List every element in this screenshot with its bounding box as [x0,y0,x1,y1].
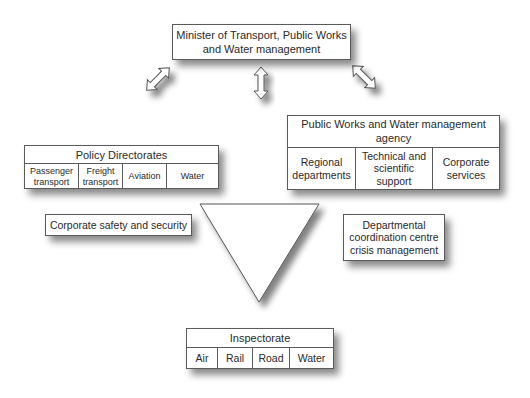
policy-directorates-box: Policy Directorates Passenger transport … [24,145,219,189]
minister-line1: Minister of Transport, Public Works [176,28,346,42]
inspectorate-title-text: Inspectorate [230,332,291,344]
unit-line: transport [83,177,119,187]
unit-line: Corporate [443,156,490,168]
unit-line: Water [181,171,205,181]
policy-unit-water: Water [167,164,218,189]
inspectorate-unit-water: Water [290,348,333,368]
unit-label: Road [258,352,283,364]
agency-unit-corporate: Corporate services [433,148,499,189]
unit-line: transport [34,177,70,187]
agency-unit-technical: Technical and scientific support [356,148,433,189]
agency-title: Public Works and Water management agency [288,116,499,148]
inspectorate-unit-air: Air [187,348,218,368]
minister-line2: and Water management [203,42,321,56]
policy-unit-aviation: Aviation [123,164,167,189]
triangle-shape [200,204,319,302]
policy-unit-passenger: Passenger transport [25,164,79,189]
agency-title-line: Public Works and Water management [301,118,486,132]
inspectorate-title: Inspectorate [187,329,333,348]
inspectorate-box: Inspectorate Air Rail Road Water [186,328,334,369]
crisis-management-box: Departmental coordination centre crisis … [343,214,445,261]
crisis-line: Departmental [362,219,425,232]
unit-line: Passenger [30,166,73,176]
unit-label: Rail [226,352,244,364]
unit-line: Aviation [129,171,161,181]
policy-title-text: Policy Directorates [76,149,168,161]
unit-line: support [376,175,411,187]
unit-label: Water [298,352,326,364]
minister-box: Minister of Transport, Public Works and … [172,24,351,60]
crisis-line: crisis management [350,244,438,257]
unit-label: Air [196,352,209,364]
inspectorate-unit-road: Road [253,348,290,368]
inspectorate-unit-rail: Rail [218,348,253,368]
unit-line: Regional [301,156,342,168]
right-double-arrow-icon [348,61,381,94]
policy-directorates-title: Policy Directorates [25,146,218,164]
corporate-safety-box: Corporate safety and security [45,214,192,236]
center-double-arrow-icon [254,67,268,99]
unit-line: scientific [374,162,414,174]
unit-line: Technical and [362,150,426,162]
policy-unit-freight: Freight transport [79,164,123,189]
unit-line: departments [292,169,350,181]
agency-title-line: agency [376,132,411,146]
crisis-line: coordination centre [349,231,438,244]
agency-box: Public Works and Water management agency… [287,115,500,190]
unit-line: services [447,169,486,181]
agency-unit-regional: Regional departments [288,148,356,189]
corporate-safety-label: Corporate safety and security [50,219,187,231]
left-double-arrow-icon [142,63,175,96]
unit-line: Freight [86,166,114,176]
